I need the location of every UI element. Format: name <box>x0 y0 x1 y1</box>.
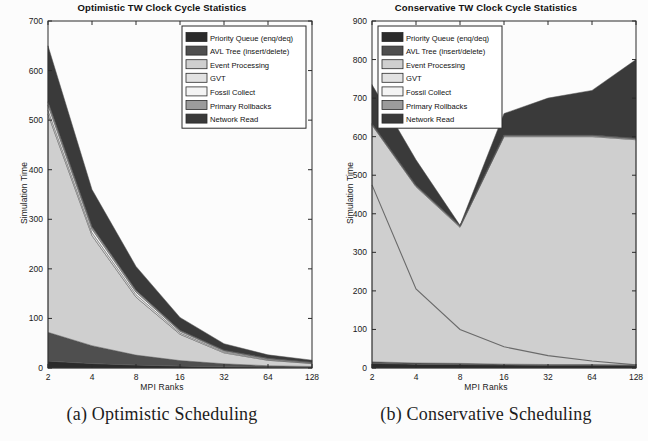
legend-swatch-6 <box>382 114 403 123</box>
legend-label-3: GVT <box>406 74 422 83</box>
y-tick-label-3: 300 <box>353 247 367 257</box>
legend-label-2: Event Processing <box>406 61 465 70</box>
y-tick-label-0: 0 <box>362 363 367 373</box>
y-tick-label-3: 300 <box>29 214 43 224</box>
legend-label-1: AVL Tree (insert/delete) <box>406 47 486 56</box>
chart-panel-optimistic: Optimistic TW Clock Cycle Statistics 010… <box>0 0 324 400</box>
x-tick-label-0: 2 <box>370 372 375 382</box>
legend-swatch-3 <box>382 73 403 82</box>
y-tick-label-2: 200 <box>29 264 43 274</box>
legend-swatch-0 <box>382 33 403 42</box>
chart-panel-conservative: Conservative TW Clock Cycle Statistics 0… <box>324 0 648 400</box>
x-tick-label-1: 4 <box>414 372 419 382</box>
legend-label-4: Fossil Collect <box>210 88 256 97</box>
y-axis-label-optimistic: Simulation Time <box>19 143 29 243</box>
legend-swatch-5 <box>382 101 403 110</box>
legend-label-0: Priority Queue (enq/deq) <box>406 34 490 43</box>
legend-label-1: AVL Tree (insert/delete) <box>210 47 290 56</box>
x-tick-label-5: 64 <box>587 372 597 382</box>
legend-swatch-6 <box>186 114 207 123</box>
x-tick-label-6: 128 <box>629 372 643 382</box>
legend-swatch-1 <box>186 46 207 55</box>
legend-swatch-4 <box>186 87 207 96</box>
legend-swatch-2 <box>186 60 207 69</box>
y-tick-label-1: 100 <box>29 313 43 323</box>
y-tick-label-7: 700 <box>353 93 367 103</box>
legend-swatch-3 <box>186 73 207 82</box>
x-tick-label-5: 64 <box>263 372 273 382</box>
x-axis-label-optimistic: MPI Ranks <box>0 382 324 392</box>
legend-swatch-2 <box>382 60 403 69</box>
chart-legend: Priority Queue (enq/deq)AVL Tree (insert… <box>182 26 306 128</box>
legend-label-5: Primary Rollbacks <box>210 102 271 111</box>
y-tick-label-5: 500 <box>29 115 43 125</box>
y-tick-label-8: 800 <box>353 55 367 65</box>
x-tick-label-1: 4 <box>90 372 95 382</box>
x-tick-label-4: 32 <box>543 372 553 382</box>
legend-swatch-1 <box>382 46 403 55</box>
chart-legend: Priority Queue (enq/deq)AVL Tree (insert… <box>378 26 502 128</box>
figure-root: Optimistic TW Clock Cycle Statistics 010… <box>0 0 648 441</box>
x-tick-label-4: 32 <box>219 372 229 382</box>
y-tick-label-9: 900 <box>353 16 367 26</box>
legend-swatch-0 <box>186 33 207 42</box>
y-tick-label-1: 100 <box>353 324 367 334</box>
legend-swatch-4 <box>382 87 403 96</box>
chart-title-conservative: Conservative TW Clock Cycle Statistics <box>324 1 648 15</box>
x-axis-label-conservative: MPI Ranks <box>324 382 648 392</box>
x-tick-label-6: 128 <box>305 372 319 382</box>
plot-area-optimistic: 0100200300400500600700248163264128Priori… <box>0 14 324 400</box>
y-axis-label-conservative: Simulation Time <box>345 143 355 243</box>
x-tick-label-3: 16 <box>175 372 185 382</box>
x-tick-label-3: 16 <box>499 372 509 382</box>
x-tick-label-2: 8 <box>458 372 463 382</box>
plot-svg-optimistic: 0100200300400500600700248163264128Priori… <box>0 14 324 400</box>
chart-title-optimistic: Optimistic TW Clock Cycle Statistics <box>0 1 324 15</box>
subfigure-caption-b: (b) Conservative Scheduling <box>324 404 648 425</box>
legend-label-5: Primary Rollbacks <box>406 102 467 111</box>
x-tick-label-2: 8 <box>134 372 139 382</box>
legend-label-4: Fossil Collect <box>406 88 452 97</box>
legend-label-3: GVT <box>210 74 226 83</box>
subfigure-caption-a: (a) Optimistic Scheduling <box>0 404 324 425</box>
y-tick-label-2: 200 <box>353 286 367 296</box>
legend-label-0: Priority Queue (enq/deq) <box>210 34 294 43</box>
legend-label-2: Event Processing <box>210 61 269 70</box>
plot-svg-conservative: 0100200300400500600700800900248163264128… <box>324 14 648 400</box>
y-tick-label-6: 600 <box>29 66 43 76</box>
y-tick-label-0: 0 <box>38 363 43 373</box>
y-tick-label-7: 700 <box>29 16 43 26</box>
legend-label-6: Network Read <box>210 115 258 124</box>
y-tick-label-6: 600 <box>353 132 367 142</box>
plot-area-conservative: 0100200300400500600700800900248163264128… <box>324 14 648 400</box>
legend-label-6: Network Read <box>406 115 454 124</box>
y-tick-label-4: 400 <box>29 165 43 175</box>
x-tick-label-0: 2 <box>46 372 51 382</box>
legend-swatch-5 <box>186 101 207 110</box>
